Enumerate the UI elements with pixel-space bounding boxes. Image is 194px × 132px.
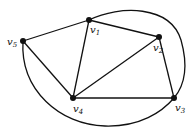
edges	[23, 10, 185, 126]
node-v4	[70, 95, 76, 101]
node-v1	[86, 17, 92, 23]
label-v1: v1	[90, 24, 100, 37]
node-v3	[171, 95, 177, 101]
edge-v4-v5	[23, 41, 73, 98]
node-v5	[20, 38, 26, 44]
label-v2: v2	[153, 42, 164, 55]
graph-diagram: v1 v2 v3 v4 v5	[0, 0, 194, 132]
edge-v2-v4	[73, 37, 159, 98]
node-v2	[156, 34, 162, 40]
edge-v5-v3-curved	[23, 41, 174, 126]
edge-v5-v1	[23, 20, 89, 41]
edge-v1-v4	[73, 20, 89, 98]
label-v5: v5	[7, 36, 18, 49]
label-v3: v3	[175, 102, 186, 115]
label-v4: v4	[73, 103, 83, 116]
